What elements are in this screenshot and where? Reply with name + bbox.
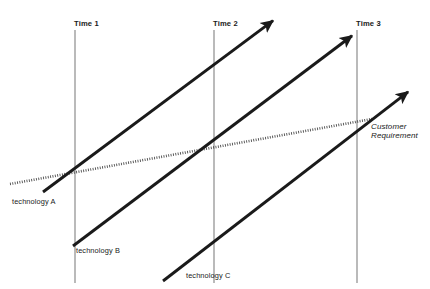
technology-c-arrow <box>163 92 408 281</box>
time-marker-label-2: Time 2 <box>213 20 238 29</box>
technology-a-arrow <box>43 21 273 192</box>
diagram-svg <box>0 0 430 289</box>
diagram-canvas: Time 1 Time 2 Time 3 technology A techno… <box>0 0 430 289</box>
customer-requirement-label-line-1: Customer <box>371 122 418 131</box>
time-marker-label-3: Time 3 <box>356 20 381 29</box>
customer-requirement-label: Customer Requirement <box>371 122 418 140</box>
time-marker-label-1: Time 1 <box>74 20 99 29</box>
customer-requirement-label-line-2: Requirement <box>371 131 418 140</box>
technology-a-label: technology A <box>12 198 56 207</box>
technology-c-label: technology C <box>186 272 230 281</box>
technology-b-label: technology B <box>76 247 120 256</box>
customer-requirement-line <box>10 119 372 184</box>
customer-requirement-line-group <box>10 119 372 184</box>
technology-arrows <box>43 21 408 281</box>
